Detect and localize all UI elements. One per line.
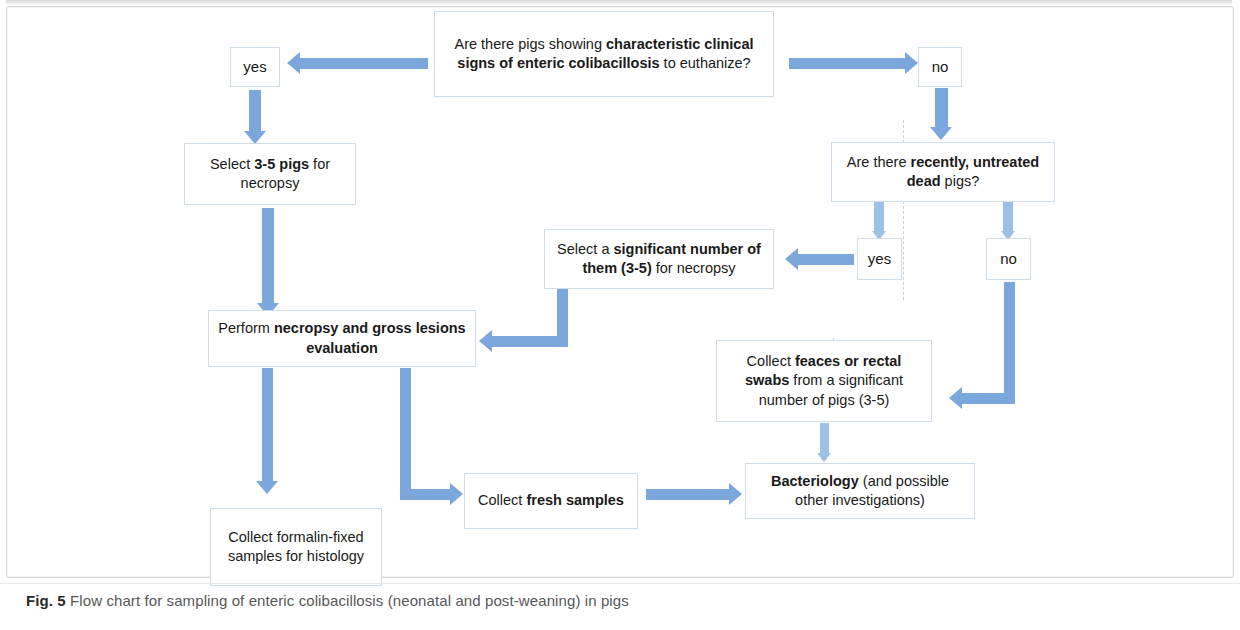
arrow-fresh-to-bacteriology <box>646 489 729 500</box>
arrow-q1-to-no <box>789 58 905 69</box>
node-text: no <box>994 249 1023 269</box>
arrow-necropsy-to-formalin <box>262 368 273 481</box>
node-collect-fresh-samples[interactable]: Collect fresh samples <box>464 473 638 529</box>
node-question-dead-pigs[interactable]: Are there recently, untreated dead pigs? <box>831 142 1055 202</box>
node-text: Select 3-5 pigs for necropsy <box>192 155 348 193</box>
arrow-no-to-q2 <box>935 88 948 127</box>
arrow-selectsig-to-necropsy-horizontal <box>492 336 568 347</box>
arrow-head-left <box>949 387 962 409</box>
arrow-necropsy-to-fresh-vertical <box>400 368 411 495</box>
arrow-select35-to-necropsy <box>262 208 274 303</box>
arrow-head-down <box>817 453 831 462</box>
node-collect-feaces-rectal-swabs[interactable]: Collect feaces or rectal swabs from a si… <box>716 340 932 422</box>
arrow-no-to-feaces-horizontal <box>962 393 1015 404</box>
arrow-head-left <box>479 330 492 352</box>
node-select-significant-number[interactable]: Select a significant number of them (3-5… <box>544 229 774 289</box>
node-text: Are there recently, untreated dead pigs? <box>839 153 1047 191</box>
node-text: Collect formalin-fixed samples for histo… <box>218 528 374 566</box>
node-branch-no-dead[interactable]: no <box>986 238 1031 280</box>
node-branch-no-top[interactable]: no <box>918 47 962 87</box>
node-collect-formalin-fixed-samples[interactable]: Collect formalin-fixed samples for histo… <box>210 508 382 586</box>
arrow-head-down <box>256 481 278 494</box>
node-perform-necropsy[interactable]: Perform necropsy and gross lesions evalu… <box>208 310 476 367</box>
node-text: yes <box>865 249 894 269</box>
caption-divider <box>0 583 1240 584</box>
node-text: no <box>926 57 954 77</box>
arrow-necropsy-to-fresh-horizontal <box>400 489 450 500</box>
arrow-head-left <box>785 248 798 270</box>
node-text: yes <box>238 57 272 77</box>
arrow-yes-to-select35 <box>249 90 261 131</box>
node-branch-yes-top[interactable]: yes <box>230 47 280 87</box>
figure-caption-text: Flow chart for sampling of enteric colib… <box>66 592 629 609</box>
node-question-clinical-signs[interactable]: Are there pigs showing characteristic cl… <box>434 11 774 97</box>
node-select-3-5-pigs[interactable]: Select 3-5 pigs for necropsy <box>184 143 356 205</box>
node-text: Are there pigs showing characteristic cl… <box>442 35 766 73</box>
figure-page: Are there pigs showing characteristic cl… <box>0 0 1240 630</box>
arrow-head-down <box>930 127 952 140</box>
arrow-q2-to-no <box>1003 202 1013 232</box>
arrow-head-right <box>729 483 742 505</box>
node-text: Collect fresh samples <box>472 491 630 510</box>
node-text: Select a significant number of them (3-5… <box>552 240 766 278</box>
node-bacteriology[interactable]: Bacteriology (and possible other investi… <box>745 463 975 519</box>
figure-caption: Fig. 5 Flow chart for sampling of enteri… <box>26 592 1206 609</box>
arrow-head-left <box>287 52 300 74</box>
node-text: Collect feaces or rectal swabs from a si… <box>724 352 924 409</box>
node-branch-yes-dead[interactable]: yes <box>857 238 902 280</box>
arrow-head-right <box>450 483 463 505</box>
node-text: Bacteriology (and possible other investi… <box>753 472 967 510</box>
arrow-yes-to-selectsig <box>798 254 854 265</box>
arrow-no-to-feaces-vertical <box>1004 282 1015 404</box>
arrow-q1-to-yes <box>300 58 428 69</box>
node-text: Perform necropsy and gross lesions evalu… <box>216 319 468 357</box>
arrow-head-right <box>905 52 918 74</box>
arrow-feaces-to-bacteriology <box>820 423 829 454</box>
arrow-q2-to-yes <box>874 202 884 232</box>
figure-number: Fig. 5 <box>26 592 66 609</box>
